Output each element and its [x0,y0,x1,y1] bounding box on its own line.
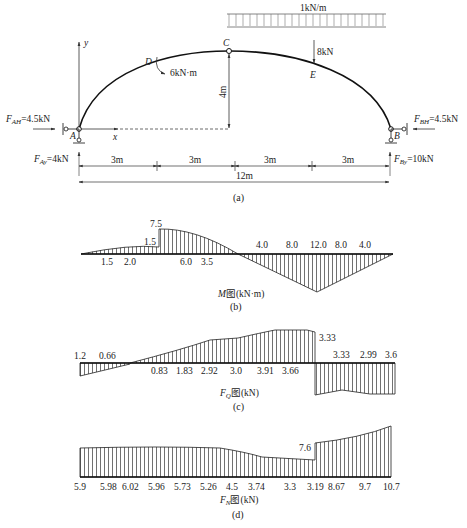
arch-analysis-figure: 1kN/m y x C 4m D 6kN·m 8kN E [0,0,467,528]
y-axis-label: y [83,38,89,48]
distributed-load-label: 1kN/m [300,3,327,13]
height-label: 4m [218,85,228,98]
figure-a-structure: 1kN/m y x C 4m D 6kN·m 8kN E [5,3,458,204]
moment-diagram: 1.5 2.0 1.5 7.5 6.0 3.5 4.0 8.0 12.0 8.0… [81,219,393,313]
m-label: 4.0 [359,240,371,250]
dim-total: 12m [236,171,254,181]
caption-b: (b) [230,301,242,313]
n-title: FN图(kN) [219,495,258,507]
q-label: 3.33 [333,350,350,360]
q-label: 0.83 [151,366,168,376]
n-label: 5.73 [174,482,191,492]
fay-label: FAy=4kN [33,154,69,166]
q-label: 2.92 [201,366,218,376]
n-label: 5.96 [148,482,165,492]
n-label: 5.9 [74,482,86,492]
dim-seg1: 3m [111,155,124,165]
m-label: 12.0 [310,240,327,250]
m-label: 8.0 [335,240,347,250]
m-label: 1.5 [144,237,156,247]
caption-a: (a) [233,192,244,204]
point-d-label: D [144,57,152,67]
n-label: 3.19 [307,482,324,492]
m-title: M图(kN·m) [217,289,264,300]
point-load-label: 8kN [317,47,334,57]
n-label: 7.6 [299,443,311,453]
q-label: 3.0 [230,366,242,376]
n-label: 9.7 [359,482,371,492]
m-label: 3.5 [201,257,213,267]
fah-label: FAH=4.5kN [5,114,50,126]
n-label: 5.98 [100,482,117,492]
q-label: 3.66 [282,366,299,376]
x-axis-label: x [112,132,118,142]
dim-seg3: 3m [264,155,277,165]
hinge-c [227,49,232,54]
dim-seg2: 3m [189,155,202,165]
n-label: 8.67 [328,482,345,492]
n-label: 5.26 [200,482,217,492]
m-label: 7.5 [150,219,162,229]
distributed-load: 1kN/m [227,3,386,27]
m-label: 2.0 [124,257,136,267]
axial-diagram: 5.9 5.98 6.02 5.96 5.73 5.26 4.5 3.74 3.… [74,426,400,521]
n-label: 4.5 [226,482,238,492]
shear-diagram: 1.2 0.66 0.83 1.83 2.92 3.0 3.91 3.66 3.… [74,330,397,413]
m-label: 1.5 [101,257,113,267]
n-label: 3.3 [284,482,296,492]
n-label: 3.74 [248,482,265,492]
q-title: FQ图(kN) [219,388,259,400]
q-label: 1.2 [74,351,86,361]
point-e-label: E [309,70,316,80]
fby-label: FBy=10kN [393,154,434,166]
q-label: 1.83 [176,366,193,376]
point-b-label: B [394,131,400,141]
caption-c: (c) [233,401,244,413]
fbh-label: FBH=4.5kN [413,114,458,126]
q-label: 0.66 [99,351,116,361]
m-label: 8.0 [286,240,298,250]
m-label: 6.0 [180,257,192,267]
point-a-label: A [69,131,76,141]
caption-d: (d) [232,509,244,521]
dim-seg4: 3m [342,155,355,165]
moment-label: 6kN·m [170,68,198,78]
q-label: 3.91 [257,366,274,376]
q-label: 3.33 [319,333,336,343]
n-label: 6.02 [122,482,139,492]
q-label: 3.6 [385,350,397,360]
arch-curve [79,51,391,129]
n-label: 10.7 [383,482,400,492]
point-c-label: C [223,38,230,48]
m-label: 4.0 [256,240,268,250]
q-label: 2.99 [360,350,377,360]
